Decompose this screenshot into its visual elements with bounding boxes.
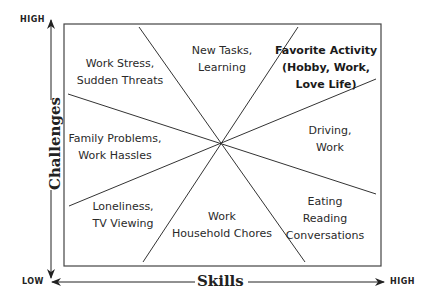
x-axis-low-label: LOW (22, 277, 44, 286)
region-loneliness: Loneliness, TV Viewing (92, 198, 153, 232)
region-favorite-activity: Favorite Activity (Hobby, Work, Love Lif… (275, 42, 377, 93)
region-label-line: Conversations (286, 227, 364, 244)
region-label-line: Reading (286, 210, 364, 227)
region-label-line: Work (308, 139, 351, 156)
region-label-line: Favorite Activity (275, 42, 377, 59)
region-household: Work Household Chores (172, 208, 272, 242)
region-label-line: TV Viewing (92, 215, 153, 232)
region-driving: Driving, Work (308, 122, 351, 156)
region-label-line: Loneliness, (92, 198, 153, 215)
region-family-problems: Family Problems, Work Hassles (68, 130, 161, 164)
region-new-tasks: New Tasks, Learning (192, 42, 252, 76)
region-label-line: New Tasks, (192, 42, 252, 59)
region-label-line: Household Chores (172, 225, 272, 242)
region-label-line: Learning (192, 59, 252, 76)
region-label-line: Family Problems, (68, 130, 161, 147)
region-label-line: Driving, (308, 122, 351, 139)
x-axis-high-label: HIGH (390, 277, 415, 286)
region-label-line: Sudden Threats (77, 72, 164, 89)
region-work-stress: Work Stress, Sudden Threats (77, 55, 164, 89)
y-axis-high-label: HIGH (20, 15, 45, 24)
region-label-line: (Hobby, Work, (275, 59, 377, 76)
region-eating: Eating Reading Conversations (286, 193, 364, 244)
region-label-line: Work (172, 208, 272, 225)
region-label-line: Love Life) (275, 76, 377, 93)
region-label-line: Eating (286, 193, 364, 210)
x-axis-title: Skills (197, 272, 244, 290)
region-label-line: Work Stress, (77, 55, 164, 72)
y-axis-title: Challenges (46, 100, 64, 190)
region-label-line: Work Hassles (68, 147, 161, 164)
